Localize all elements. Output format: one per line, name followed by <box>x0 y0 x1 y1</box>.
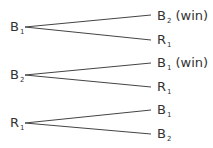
root-node-r1: R1 <box>10 116 25 135</box>
edge-r1-b1 <box>25 110 151 123</box>
leaf-node-b1-win: B1 (win) <box>157 56 208 75</box>
edge-b2-r1 <box>25 75 151 87</box>
leaf-node-r1: R1 <box>157 80 172 99</box>
leaf-node-b2-win: B2 (win) <box>157 9 208 28</box>
leaf-node-b2: B2 <box>157 127 171 146</box>
root-node-b2: B2 <box>10 68 24 87</box>
leaf-node-b1: B1 <box>157 103 171 122</box>
edge-b1-r1 <box>25 27 151 40</box>
edge-b2-b1 <box>25 63 151 75</box>
edge-b1-b2 <box>25 15 151 27</box>
leaf-node-r1: R1 <box>157 33 172 52</box>
edge-r1-b2 <box>25 123 151 134</box>
root-node-b1: B1 <box>10 20 24 39</box>
